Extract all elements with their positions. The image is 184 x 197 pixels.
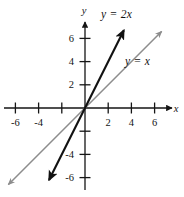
- y-tick-label--6: -6: [65, 172, 74, 183]
- x-tick-label--6: -6: [11, 117, 20, 128]
- coordinate-plane-svg: -6 -4 2 4 6 x 6 4 2 -4 -6 y: [0, 0, 184, 197]
- x-axis-label: x: [173, 103, 179, 114]
- x-tick-label-4: 4: [129, 117, 135, 128]
- x-tick-label-2: 2: [106, 117, 111, 128]
- x-tick-label--4: -4: [34, 117, 43, 128]
- annotation-y-equals-2x: y = 2x: [101, 8, 132, 20]
- graph-figure: -6 -4 2 4 6 x 6 4 2 -4 -6 y y = 2: [0, 0, 184, 197]
- y-axis: 6 4 2 -4 -6 y: [65, 5, 90, 190]
- line-y-equals-2x: [49, 30, 124, 180]
- y-tick-label-4: 4: [69, 56, 75, 67]
- annotation-y-equals-x: y = x: [125, 55, 150, 67]
- x-tick-label-6: 6: [152, 117, 157, 128]
- y-tick-label--4: -4: [65, 149, 74, 160]
- y-tick-label-2: 2: [69, 79, 74, 90]
- y-axis-label: y: [81, 5, 87, 16]
- y-tick-label-6: 6: [69, 33, 74, 44]
- x-axis: -6 -4 2 4 6 x: [4, 103, 179, 129]
